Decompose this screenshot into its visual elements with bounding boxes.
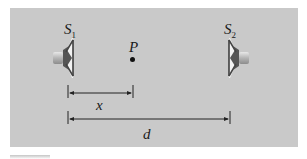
- speaker-1-icon: [53, 38, 73, 78]
- dimension-d: [68, 111, 230, 124]
- figure-caption-cutoff: [10, 155, 50, 159]
- speaker-2-icon: [229, 38, 249, 78]
- dimension-x-label: x: [96, 98, 103, 113]
- diagram-graphics: [0, 0, 307, 159]
- dimension-d-label: d: [143, 127, 151, 142]
